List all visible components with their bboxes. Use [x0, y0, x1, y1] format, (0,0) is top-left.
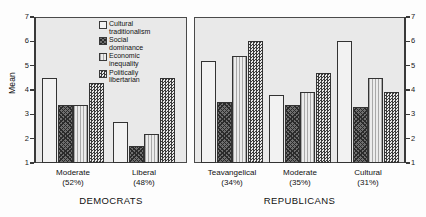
bar-dem_moderate-3: [89, 83, 104, 163]
y-tick-label-3: 3: [411, 110, 419, 118]
bar-dem_moderate-1: [58, 105, 73, 163]
y-tick-1: [406, 162, 410, 164]
y-tick-4: [30, 89, 34, 91]
y-tick-label-4: 4: [23, 86, 29, 94]
bar-dem_moderate-0: [42, 78, 57, 163]
y-tick-5: [30, 65, 34, 67]
legend-label-3: Politically libertarian: [109, 69, 140, 84]
chart-legend: Cultural traditionalismSocial dominanceE…: [99, 20, 183, 85]
bar-dem_liberal-3: [160, 78, 175, 163]
bar-rep_moderate-3: [316, 73, 331, 163]
y-axis-label: Mean: [7, 61, 17, 105]
y-tick-7: [30, 16, 34, 18]
y-tick-2: [30, 138, 34, 140]
y-tick-label-1: 1: [23, 159, 29, 167]
bar-rep_teavangelical-3: [248, 41, 263, 163]
bar-rep_teavangelical-2: [232, 56, 247, 163]
bar-rep_moderate-2: [300, 92, 315, 163]
bar-dem_liberal-0: [113, 122, 128, 163]
bar-rep_cultural-3: [384, 92, 399, 163]
legend-swatch-icon-1: [99, 37, 107, 45]
category-label-dem_liberal: Liberal (48%): [99, 168, 189, 188]
legend-swatch-icon-2: [99, 53, 107, 61]
bar-rep_cultural-1: [353, 107, 368, 163]
y-tick-label-2: 2: [23, 135, 29, 143]
y-tick-label-5: 5: [411, 62, 419, 70]
y-tick-6: [406, 41, 410, 43]
y-tick-label-2: 2: [411, 135, 419, 143]
legend-item-1[interactable]: Social dominance: [99, 36, 183, 51]
y-tick-label-5: 5: [23, 62, 29, 70]
y-tick-label-3: 3: [23, 110, 29, 118]
legend-label-2: Economic inequality: [109, 52, 140, 67]
bar-rep_cultural-0: [337, 41, 352, 163]
y-tick-label-7: 7: [23, 13, 29, 21]
bar-dem_liberal-2: [144, 134, 159, 163]
y-tick-label-4: 4: [411, 86, 419, 94]
y-tick-label-6: 6: [411, 37, 419, 45]
chart-root: Mean 11223344556677 Cultural traditional…: [0, 0, 426, 217]
y-tick-3: [406, 114, 410, 116]
legend-label-0: Cultural traditionalism: [109, 20, 150, 35]
category-label-rep_cultural: Cultural (31%): [323, 168, 413, 188]
y-tick-6: [30, 41, 34, 43]
y-tick-4: [406, 89, 410, 91]
y-tick-1: [30, 162, 34, 164]
party-label-democrats: DEMOCRATS: [35, 195, 187, 206]
y-tick-5: [406, 65, 410, 67]
party-label-republicans: REPUBLICANS: [194, 195, 405, 206]
bar-rep_teavangelical-0: [201, 61, 216, 163]
y-tick-label-7: 7: [411, 13, 419, 21]
y-tick-label-6: 6: [23, 37, 29, 45]
legend-item-2[interactable]: Economic inequality: [99, 52, 183, 67]
bar-rep_moderate-1: [285, 105, 300, 163]
y-tick-3: [30, 114, 34, 116]
y-tick-2: [406, 138, 410, 140]
bar-dem_liberal-1: [129, 146, 144, 163]
bar-rep_moderate-0: [269, 95, 284, 163]
legend-swatch-icon-3: [99, 70, 107, 78]
legend-swatch-icon-0: [99, 21, 107, 29]
legend-item-3[interactable]: Politically libertarian: [99, 69, 183, 84]
y-axis-left: [34, 17, 36, 163]
bar-dem_moderate-2: [73, 105, 88, 163]
legend-item-0[interactable]: Cultural traditionalism: [99, 20, 183, 35]
bar-rep_teavangelical-1: [217, 102, 232, 163]
y-tick-label-1: 1: [411, 159, 419, 167]
legend-label-1: Social dominance: [109, 36, 143, 51]
bar-rep_cultural-2: [368, 78, 383, 163]
y-tick-7: [406, 16, 410, 18]
